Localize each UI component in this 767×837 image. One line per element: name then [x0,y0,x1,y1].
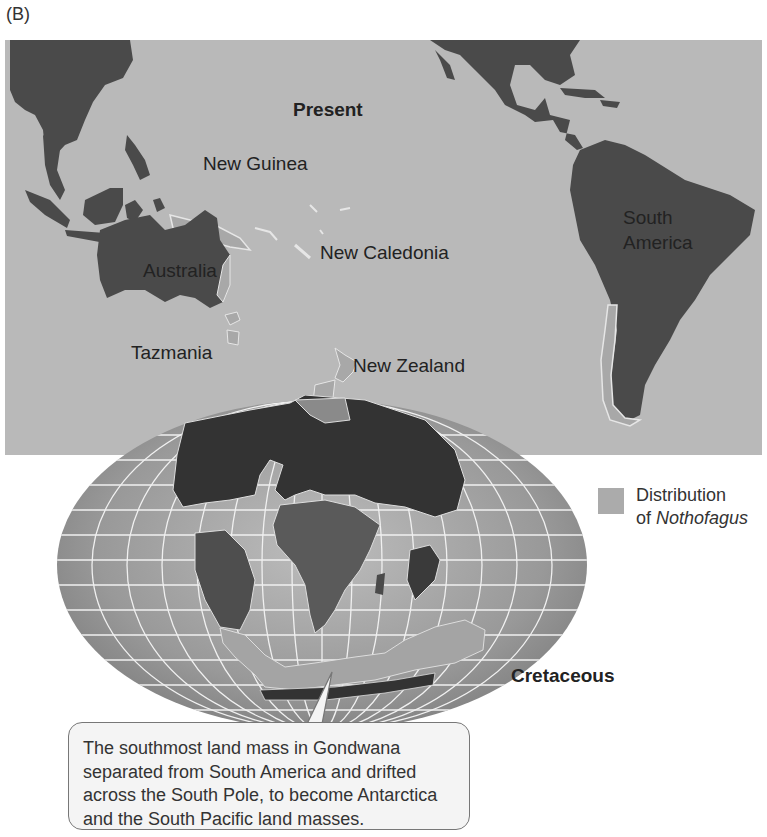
tasmania-landmass [225,312,240,325]
panel-label: (B) [6,4,30,25]
callout-box: The southmost land mass in Gondwana sepa… [68,722,470,830]
tazmania-label: Tazmania [131,342,212,364]
south-america-label-line2: America [623,232,693,254]
legend-label: Distribution of Nothofagus [636,484,748,530]
new-zealand-label: New Zealand [353,355,465,377]
australia-label: Australia [143,260,217,282]
callout-text: The southmost land mass in Gondwana sepa… [83,737,459,831]
asia-landmass [10,40,133,158]
nothofagus-swatch [598,488,624,514]
south-america-landmass [570,140,755,420]
new-caledonia-label: New Caledonia [320,242,449,264]
cretaceous-title: Cretaceous [511,665,615,687]
present-map: Present New Guinea Australia New Caledon… [5,40,762,455]
legend-line2: of Nothofagus [636,507,748,530]
new-caledonia-landmass [295,245,310,258]
present-title: Present [293,99,363,121]
legend-line1: Distribution [636,484,748,507]
north-america-landmass [430,40,583,150]
cretaceous-globe [55,395,590,735]
legend-species-name: Nothofagus [656,508,748,528]
australia-landmass [97,210,230,308]
new-guinea-label: New Guinea [203,153,308,175]
south-america-label-line1: South [623,207,673,229]
